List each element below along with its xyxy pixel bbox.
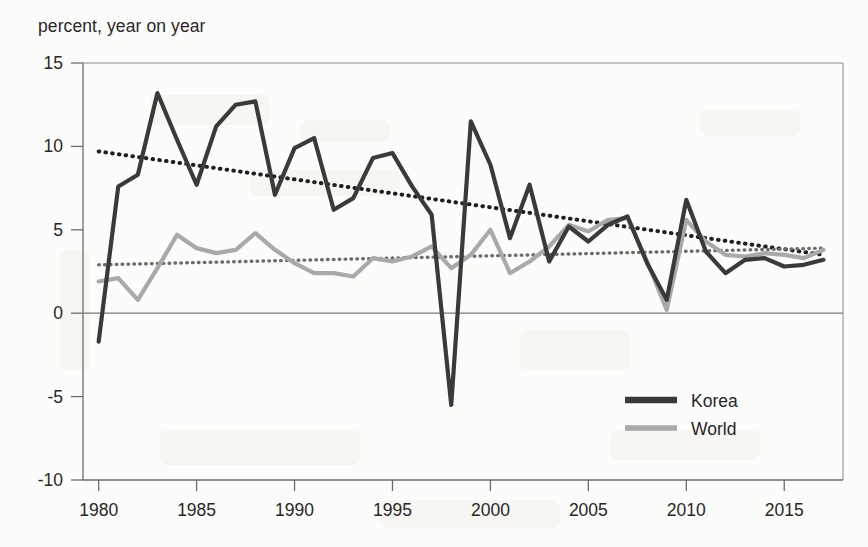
legend-label-world: World [691,419,736,439]
scan-speck [520,330,630,370]
series-layer [99,93,824,405]
x-tick-label: 2010 [667,500,706,520]
scan-noise [60,95,800,528]
y-tick-label: -10 [38,470,64,490]
y-tick-label: 10 [44,136,64,156]
y-tick-labels: 151050-5-10 [38,53,64,490]
chart-figure: percent, year on year 151050-5-10 198019… [0,0,868,547]
y-tick-label: 15 [44,53,63,73]
x-tick-label: 2005 [569,500,608,520]
x-tick-label: 1980 [79,500,118,520]
y-tick-label: 5 [53,220,63,240]
x-tick-label: 2015 [765,500,804,520]
scan-speck [60,250,90,370]
x-tick-label: 1995 [373,500,412,520]
line-chart: 151050-5-10 1980198519901995200020052010… [0,0,868,547]
x-tick-label: 1990 [275,500,314,520]
x-tick-label: 2000 [471,500,510,520]
x-tick-label: 1985 [177,500,216,520]
scan-speck [610,430,760,460]
legend-label-korea: Korea [691,391,738,411]
y-tick-label: -5 [47,387,63,407]
scan-speck [700,110,800,136]
scan-speck [160,430,360,465]
y-tick-label: 0 [53,303,63,323]
